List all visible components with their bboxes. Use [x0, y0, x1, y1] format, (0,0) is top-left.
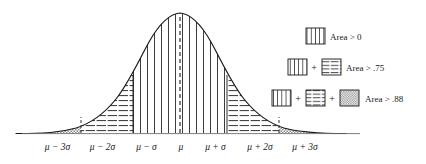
x-tick-label-6: μ + 3σ	[291, 142, 318, 152]
legend-swatch-vertical-lines	[306, 28, 325, 44]
legend-swatch-gray-stipple	[340, 90, 359, 106]
legend-swatch-horizontal-dashes	[322, 59, 341, 75]
legend: Area > 0 + Area > .75 + + Area > .88	[272, 28, 404, 106]
legend-plus-icon: +	[311, 62, 317, 73]
normal-distribution-figure: μ − 3σ μ − 2σ μ − σ μ μ + σ μ + 2σ μ + 3…	[0, 0, 426, 164]
legend-label-2: Area > .88	[365, 94, 404, 104]
region-horizontal-dashes-right	[227, 0, 279, 164]
x-tick-label-5: μ + 2σ	[246, 142, 273, 152]
legend-item-2: + + Area > .88	[272, 90, 404, 106]
x-tick-label-3: μ	[178, 142, 184, 152]
legend-plus-icon: +	[329, 93, 335, 104]
legend-item-0: Area > 0	[306, 28, 362, 44]
legend-label-1: Area > .75	[346, 63, 385, 73]
x-axis-tick-labels: μ − 3σ μ − 2σ μ − σ μ μ + σ μ + 2σ μ + 3…	[44, 142, 318, 152]
chart-canvas: μ − 3σ μ − 2σ μ − σ μ μ + σ μ + 2σ μ + 3…	[0, 0, 426, 164]
legend-swatch-horizontal-dashes	[306, 90, 325, 106]
legend-plus-icon: +	[295, 93, 301, 104]
legend-swatch-vertical-lines	[288, 59, 307, 75]
x-tick-label-2: μ − σ	[135, 142, 157, 152]
x-tick-label-1: μ − 2σ	[89, 142, 116, 152]
region-horizontal-dashes-left	[81, 0, 133, 164]
legend-swatch-vertical-lines	[272, 90, 291, 106]
x-tick-label-0: μ − 3σ	[44, 142, 71, 152]
x-tick-label-4: μ + σ	[204, 142, 226, 152]
legend-label-0: Area > 0	[330, 32, 362, 42]
region-gray-stipple-right	[279, 0, 339, 164]
region-gray-stipple-left	[22, 0, 81, 164]
legend-item-1: + Area > .75	[288, 59, 385, 75]
